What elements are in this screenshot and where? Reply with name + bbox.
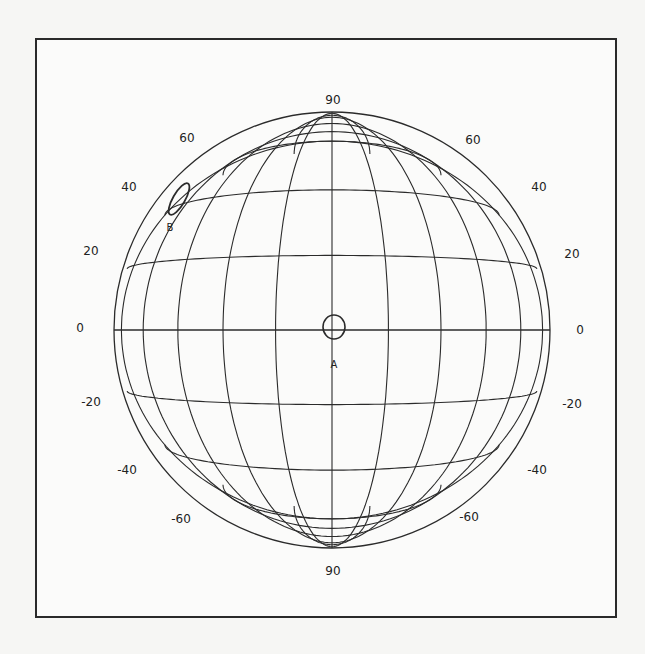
lat-label-right-minus20: -20 [562,397,582,411]
lat-label-left-40: 40 [121,180,136,194]
lat-label-left-0: 0 [76,321,84,335]
lat-label-right-20: 20 [564,247,579,261]
marker-label-a: A [331,359,338,370]
marker-a-circle [323,315,345,339]
lat-label-left-20: 20 [83,244,98,258]
lat-label-right-60: 60 [465,133,480,147]
pole-label-top: 90 [325,93,340,107]
lat-label-left-minus40: -40 [117,463,137,477]
lat-label-right-0: 0 [576,323,584,337]
globe-grid [37,40,619,620]
pole-label-bottom: 90 [325,564,340,578]
lat-label-left-minus20: -20 [81,395,101,409]
figure-frame: 90 90 60 40 20 0 -20 -40 -60 60 40 20 0 … [35,38,617,618]
lat-label-right-minus40: -40 [527,463,547,477]
lat-label-right-40: 40 [531,180,546,194]
lat-label-left-60: 60 [179,131,194,145]
lat-label-left-minus60: -60 [171,512,191,526]
marker-label-b: B [167,222,174,233]
lat-label-right-minus60: -60 [459,510,479,524]
